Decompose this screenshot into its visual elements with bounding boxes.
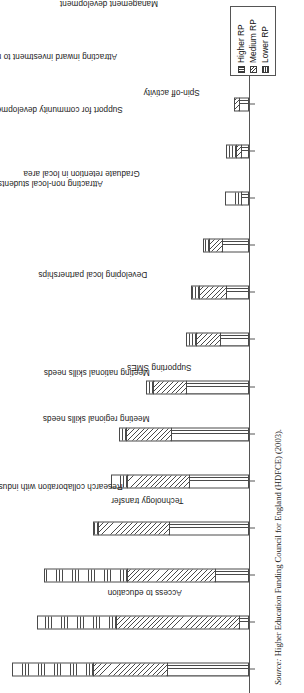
bar-segment-medium xyxy=(127,474,190,488)
bar-segment-higher xyxy=(186,380,249,394)
chart-stage: Access to educationResearch collaboratio… xyxy=(0,0,304,693)
axis-tick xyxy=(250,480,255,481)
source-note: Source: Higher Education Funding Council… xyxy=(273,429,283,685)
bar-10 xyxy=(204,238,249,252)
bar-8 xyxy=(187,332,249,346)
legend-item-lower-rp[interactable]: Lower RP xyxy=(260,9,271,73)
category-label-text: Technology transfer xyxy=(111,495,183,504)
plot-area: Access to educationResearch collaboratio… xyxy=(10,0,250,693)
legend-item-medium-rp[interactable]: Medium RP xyxy=(248,9,259,73)
bar-segment-higher xyxy=(241,144,249,158)
axis-tick xyxy=(250,291,255,292)
category-label: Technology transfer xyxy=(111,495,183,504)
bar-13 xyxy=(236,97,249,111)
category-label: Supporting SMEs xyxy=(127,362,191,371)
axis-tick xyxy=(250,386,255,387)
source-label: Source: xyxy=(273,659,283,685)
legend-label-lower-rp: Lower RP xyxy=(260,26,270,63)
bar-segment-medium xyxy=(127,568,216,582)
legend-label-medium-rp: Medium RP xyxy=(248,19,258,63)
vertical-lines-swatch-icon xyxy=(238,66,245,73)
axis-tick xyxy=(250,574,255,575)
bar-segment-medium xyxy=(98,521,169,535)
figure-container: Access to educationResearch collaboratio… xyxy=(0,0,304,693)
category-label: Attracting non-local students to the reg… xyxy=(0,178,103,187)
category-label-text: Attracting non-local students to the reg… xyxy=(0,178,103,187)
category-label: Attracting inward investment to region xyxy=(0,51,117,60)
category-label: Research collaboration with industry xyxy=(0,481,123,490)
bar-9 xyxy=(192,285,249,299)
category-label: Management development xyxy=(60,0,158,7)
source-text: Higher Education Funding Council for Eng… xyxy=(273,429,283,656)
axis-tick xyxy=(250,150,255,151)
bar-segment-higher xyxy=(189,474,249,488)
category-label-text: Research collaboration with industry xyxy=(0,481,123,490)
category-label: Meeting regional skills needs xyxy=(43,414,150,423)
bar-segment-medium xyxy=(126,427,173,441)
bar-segment-lower xyxy=(12,662,94,676)
category-label-text: Attracting inward investment to region xyxy=(0,51,117,60)
category-label: Access to education xyxy=(108,588,182,597)
bar-11 xyxy=(226,191,249,205)
bar-segment-higher xyxy=(239,615,249,629)
category-label-text: Supporting SMEs xyxy=(127,362,191,371)
bar-segment-medium xyxy=(196,332,221,346)
axis-tick xyxy=(250,668,255,669)
bar-segment-higher xyxy=(220,332,249,346)
diagonal-hatch-swatch-icon xyxy=(250,66,257,73)
bar-segment-higher xyxy=(239,97,249,111)
bar-1 xyxy=(13,662,249,676)
legend-inner: Higher RP Medium RP Lower RP xyxy=(233,9,273,73)
category-label-text: Support for community development xyxy=(0,104,123,113)
category-label-text: Meeting regional skills needs xyxy=(43,414,150,423)
chart-legend: Higher RP Medium RP Lower RP xyxy=(230,6,276,76)
bar-segment-higher xyxy=(167,662,249,676)
bar-segment-higher xyxy=(226,285,249,299)
legend-label-higher-rp: Higher RP xyxy=(236,24,246,63)
axis-ticks-group xyxy=(250,33,255,693)
axis-tick xyxy=(250,197,255,198)
category-label-text: Management development xyxy=(60,0,158,7)
axis-tick xyxy=(250,103,255,104)
category-label: Graduate retention in local area xyxy=(23,168,139,177)
bar-segment-medium xyxy=(93,662,167,676)
bar-2 xyxy=(38,615,249,629)
bar-segment-medium xyxy=(116,615,240,629)
category-label-text: Access to education xyxy=(108,588,182,597)
horizontal-lines-swatch-icon xyxy=(262,66,269,73)
bar-segment-higher xyxy=(215,568,249,582)
bar-segment-lower xyxy=(37,615,117,629)
category-label-text: Developing local partnerships xyxy=(38,270,147,279)
bar-7 xyxy=(147,380,249,394)
axis-tick xyxy=(250,621,255,622)
bar-12 xyxy=(227,144,249,158)
category-label: Spin-off activity xyxy=(144,87,200,96)
category-label-text: Spin-off activity xyxy=(144,87,200,96)
bar-segment-medium xyxy=(153,380,187,394)
axis-tick xyxy=(250,244,255,245)
axis-tick xyxy=(250,527,255,528)
bar-5 xyxy=(112,474,249,488)
bar-segment-higher xyxy=(169,521,249,535)
category-label-text: Graduate retention in local area xyxy=(23,168,139,177)
bar-segment-lower xyxy=(44,568,128,582)
legend-item-higher-rp[interactable]: Higher RP xyxy=(236,9,247,73)
bar-segment-medium xyxy=(209,238,223,252)
bar-segment-medium xyxy=(199,285,226,299)
bar-3 xyxy=(45,568,249,582)
category-label: Support for community development xyxy=(0,104,123,113)
bar-segment-higher xyxy=(171,427,249,441)
axis-tick xyxy=(250,433,255,434)
category-label: Developing local partnerships xyxy=(38,270,147,279)
bar-6 xyxy=(120,427,249,441)
bar-segment-higher xyxy=(241,191,249,205)
bar-segment-higher xyxy=(222,238,249,252)
bar-4 xyxy=(94,521,249,535)
axis-tick xyxy=(250,338,255,339)
